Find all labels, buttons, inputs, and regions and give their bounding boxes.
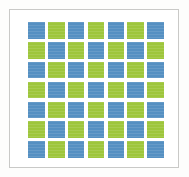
tile-blue (88, 121, 105, 138)
tile-green (28, 82, 45, 99)
tile-blue (127, 121, 144, 138)
tile-blue (147, 102, 164, 119)
tile-green (28, 121, 45, 138)
tile-green (48, 62, 65, 79)
tile-blue (68, 102, 85, 119)
tile-blue (147, 22, 164, 39)
tile-blue (127, 42, 144, 59)
tile-green (88, 62, 105, 79)
tile-blue (108, 22, 125, 39)
tile-green (127, 141, 144, 158)
tile-green (48, 22, 65, 39)
tile-blue (147, 62, 164, 79)
tile-green (48, 102, 65, 119)
tile-blue (108, 62, 125, 79)
tile-blue (108, 141, 125, 158)
tile-blue (48, 42, 65, 59)
tile-green (88, 102, 105, 119)
tile-green (127, 62, 144, 79)
tile-green (88, 141, 105, 158)
tile-green (68, 42, 85, 59)
tile-green (147, 121, 164, 138)
tile-blue (28, 22, 45, 39)
tile-blue (147, 141, 164, 158)
tile-blue (48, 121, 65, 138)
tile-blue (88, 82, 105, 99)
tile-blue (68, 141, 85, 158)
tile-blue (68, 22, 85, 39)
checkerboard-grid (28, 22, 164, 158)
tile-blue (28, 62, 45, 79)
tile-blue (28, 102, 45, 119)
tile-green (28, 42, 45, 59)
tile-blue (28, 141, 45, 158)
figure-frame (9, 9, 179, 168)
tile-blue (68, 62, 85, 79)
tile-green (68, 82, 85, 99)
tile-green (127, 102, 144, 119)
tile-green (108, 121, 125, 138)
tile-green (108, 82, 125, 99)
tile-green (88, 22, 105, 39)
tile-green (68, 121, 85, 138)
tile-green (108, 42, 125, 59)
tile-green (147, 82, 164, 99)
tile-blue (48, 82, 65, 99)
tile-blue (88, 42, 105, 59)
tile-blue (127, 82, 144, 99)
tile-green (147, 42, 164, 59)
tile-blue (108, 102, 125, 119)
tile-green (48, 141, 65, 158)
tile-green (127, 22, 144, 39)
